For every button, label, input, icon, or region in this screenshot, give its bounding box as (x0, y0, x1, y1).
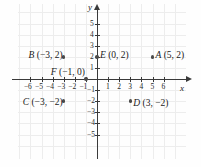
y-axis-line (97, 9, 98, 159)
y-tick-label: 4 (90, 30, 94, 39)
plot-point-a (151, 55, 155, 59)
x-tick-label: −2 (68, 82, 76, 91)
grid-line-horizontal (18, 123, 186, 124)
x-axis-line (12, 79, 188, 80)
plot-point-label-c: C (−3, −2) (23, 97, 63, 107)
grid-line-vertical (175, 4, 176, 159)
grid-line-horizontal (18, 68, 186, 69)
plot-point-label-e: E (0, 2) (100, 50, 129, 60)
x-tick-label: −6 (24, 82, 32, 91)
x-tick-label: 2 (117, 82, 121, 91)
x-tick-label: −5 (35, 82, 43, 91)
grid-line-vertical (19, 4, 20, 159)
grid-line-horizontal (18, 24, 186, 25)
y-tick-label: 5 (90, 19, 94, 28)
plot-point-d (129, 99, 133, 103)
y-axis-label: y (88, 2, 92, 12)
y-tick-label: 3 (90, 41, 94, 50)
x-tick-label: 3 (128, 82, 132, 91)
y-tick-label: 1 (90, 63, 94, 72)
grid-line-horizontal (18, 12, 186, 13)
grid-line-horizontal (18, 46, 186, 47)
x-tick-label: 5 (151, 82, 155, 91)
y-tick-label: −1 (87, 85, 95, 94)
plot-point-label-d: D (3, −2) (133, 98, 168, 108)
y-axis-arrow-icon (94, 4, 100, 10)
x-tick-label: −3 (57, 82, 65, 91)
plot-point-e (95, 55, 99, 59)
x-tick-label: 4 (139, 82, 143, 91)
grid-line-horizontal (18, 146, 186, 147)
x-axis-label: x (180, 83, 184, 93)
x-tick-label: 1 (106, 82, 110, 91)
y-tick-label: −2 (87, 96, 95, 105)
grid-line-horizontal (18, 112, 186, 113)
plot-point-f (84, 77, 88, 81)
grid-line-horizontal (18, 135, 186, 136)
plot-point-label-b: B (−3, 2) (29, 50, 63, 60)
plot-point-label-a: A (5, 2) (156, 50, 185, 60)
coordinate-plane-figure: −6−5−4−3−2−112345654321−1−2−3−4−5 x y A … (0, 0, 201, 167)
y-tick-label: −4 (87, 118, 95, 127)
y-tick-label: −3 (87, 107, 95, 116)
x-tick-label: −4 (46, 82, 54, 91)
x-tick-label: 6 (162, 82, 166, 91)
y-tick-label: 2 (90, 52, 94, 61)
plot-point-label-f: F (−1, 0) (51, 67, 85, 77)
grid-line-horizontal (18, 35, 186, 36)
y-tick-label: −5 (87, 130, 95, 139)
x-axis-arrow-icon (186, 76, 192, 82)
